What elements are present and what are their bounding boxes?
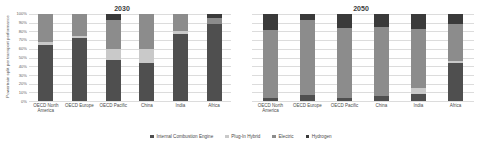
- gridline: [252, 84, 474, 85]
- legend-swatch-icon: [225, 135, 229, 139]
- bar-segment-electric[interactable]: [448, 24, 463, 61]
- gridline: [29, 23, 231, 24]
- bar-segment-hydrogen[interactable]: [337, 14, 352, 28]
- y-tick-label: 60%: [19, 47, 27, 51]
- legend-label: Hydrogen: [312, 134, 332, 139]
- bar-segment-electric[interactable]: [337, 28, 352, 98]
- bar-segment-electric[interactable]: [207, 18, 222, 25]
- y-tick-label: 70%: [19, 38, 27, 42]
- y-tick-label: 10%: [19, 91, 27, 95]
- legend-item[interactable]: Electric: [272, 134, 293, 139]
- bar-segment-electric[interactable]: [411, 29, 426, 88]
- gridline: [252, 92, 474, 93]
- y-tick-label: 40%: [19, 65, 27, 69]
- plot-area-2030: [29, 14, 231, 102]
- bar-segment-hydrogen[interactable]: [374, 14, 389, 27]
- bar-india[interactable]: [173, 14, 188, 101]
- legend-item[interactable]: Hydrogen: [306, 134, 332, 139]
- gridline: [29, 49, 231, 50]
- gridlines-2030: [29, 14, 231, 101]
- legend-swatch-icon: [150, 135, 154, 139]
- x-axis-label: OECD North America: [31, 103, 61, 121]
- x-axis-2050: OECD North AmericaOECD EuropeOECD Pacifi…: [252, 103, 474, 121]
- bar-segment-electric[interactable]: [72, 14, 87, 36]
- bar-segment-internal-combustion-engine[interactable]: [300, 95, 315, 101]
- bar-china[interactable]: [374, 14, 389, 101]
- gridline: [29, 75, 231, 76]
- legend-swatch-icon: [272, 135, 276, 139]
- legend-label: Internal Combustion Engine: [157, 134, 214, 139]
- bar-oecd-europe[interactable]: [72, 14, 87, 101]
- bar-africa[interactable]: [448, 14, 463, 101]
- legend-item[interactable]: Internal Combustion Engine: [150, 134, 213, 139]
- chart-title-2030: 2030: [13, 4, 231, 14]
- bar-segment-electric[interactable]: [173, 14, 188, 31]
- bar-segment-internal-combustion-engine[interactable]: [207, 24, 222, 101]
- chart-title-2050: 2050: [248, 4, 474, 14]
- legend-item[interactable]: Plug-In Hybrid: [225, 134, 260, 139]
- chart-panel-2030: 2030 100%90%80%70%60%50%40%30%20%10%0% O…: [13, 4, 231, 122]
- bar-segment-plug-in-hybrid[interactable]: [106, 49, 121, 60]
- legend-label: Electric: [279, 134, 294, 139]
- bar-segment-hydrogen[interactable]: [411, 14, 426, 29]
- y-tick-label: 90%: [19, 21, 27, 25]
- y-tick-label: 50%: [19, 56, 27, 60]
- legend-swatch-icon: [306, 135, 310, 139]
- y-axis-title: Powertrain split per transport performan…: [0, 0, 14, 112]
- y-axis-title-label: Powertrain split per transport performan…: [5, 15, 10, 97]
- chart-legend: Internal Combustion EnginePlug-In Hybrid…: [0, 134, 482, 139]
- x-axis-label: OECD North America: [256, 103, 286, 121]
- bar-segment-electric[interactable]: [263, 30, 278, 98]
- bar-segment-electric[interactable]: [139, 14, 154, 49]
- bar-oecd-pacific[interactable]: [106, 14, 121, 101]
- bar-segment-electric[interactable]: [300, 20, 315, 95]
- bar-segment-hydrogen[interactable]: [448, 14, 463, 24]
- x-axis-label: OECD Pacific: [98, 103, 128, 121]
- bar-segment-electric[interactable]: [38, 14, 53, 42]
- x-axis-label: Africa: [441, 103, 471, 121]
- x-axis-label: India: [404, 103, 434, 121]
- bar-segment-internal-combustion-engine[interactable]: [173, 34, 188, 101]
- gridline: [252, 14, 474, 15]
- gridline: [29, 40, 231, 41]
- gridline: [29, 31, 231, 32]
- gridline: [29, 58, 231, 59]
- bar-segment-internal-combustion-engine[interactable]: [38, 45, 53, 101]
- bar-segment-internal-combustion-engine[interactable]: [72, 38, 87, 101]
- bar-oecd-europe[interactable]: [300, 14, 315, 101]
- bar-segment-electric[interactable]: [106, 20, 121, 49]
- bar-segment-electric[interactable]: [374, 27, 389, 96]
- bar-segment-internal-combustion-engine[interactable]: [411, 94, 426, 101]
- bar-segment-internal-combustion-engine[interactable]: [263, 98, 278, 101]
- gridline: [252, 58, 474, 59]
- gridline: [29, 101, 231, 102]
- bar-segment-internal-combustion-engine[interactable]: [139, 63, 154, 101]
- gridline: [252, 23, 474, 24]
- bar-oecd-north-america[interactable]: [38, 14, 53, 101]
- plot-row-2050: [248, 14, 474, 102]
- y-tick-label: 30%: [19, 74, 27, 78]
- bar-segment-internal-combustion-engine[interactable]: [337, 98, 352, 101]
- bar-segment-internal-combustion-engine[interactable]: [106, 60, 121, 101]
- gridline: [252, 49, 474, 50]
- bar-segment-hydrogen[interactable]: [263, 14, 278, 30]
- bar-india[interactable]: [411, 14, 426, 101]
- y-axis-2030: 100%90%80%70%60%50%40%30%20%10%0%: [13, 14, 28, 102]
- y-tick-label: 0%: [21, 100, 27, 104]
- bar-segment-plug-in-hybrid[interactable]: [139, 49, 154, 63]
- x-axis-label: China: [367, 103, 397, 121]
- chart-panel-2050: 2050 OECD North AmericaOECD EuropeOECD P…: [248, 4, 474, 122]
- legend-label: Plug-In Hybrid: [231, 134, 260, 139]
- x-axis-label: Africa: [199, 103, 229, 121]
- bar-oecd-north-america[interactable]: [263, 14, 278, 101]
- x-axis-label: OECD Europe: [293, 103, 323, 121]
- bar-segment-internal-combustion-engine[interactable]: [448, 63, 463, 101]
- bar-oecd-pacific[interactable]: [337, 14, 352, 101]
- y-tick-label: 100%: [17, 12, 27, 16]
- bar-segment-internal-combustion-engine[interactable]: [374, 96, 389, 101]
- gridline: [29, 92, 231, 93]
- bar-china[interactable]: [139, 14, 154, 101]
- x-axis-label: OECD Pacific: [330, 103, 360, 121]
- x-axis-label: China: [132, 103, 162, 121]
- bar-africa[interactable]: [207, 14, 222, 101]
